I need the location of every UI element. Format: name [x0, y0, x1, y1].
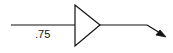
signal-flow-diagram: .75	[0, 0, 173, 53]
gain-block-triangle-icon	[75, 5, 100, 46]
gain-value-label: .75	[35, 28, 50, 40]
